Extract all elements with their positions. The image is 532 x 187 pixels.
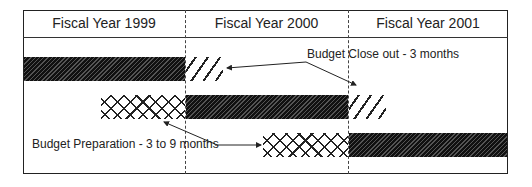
closeout-arrow-1 bbox=[227, 62, 306, 68]
preparation-arrow-1 bbox=[164, 122, 215, 144]
closeout-arrow-2 bbox=[306, 62, 356, 85]
annotation-arrows bbox=[0, 0, 532, 187]
